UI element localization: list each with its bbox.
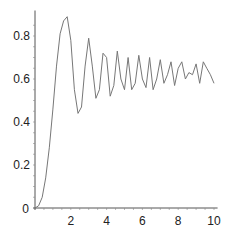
x-tick-label: 4 xyxy=(103,214,110,228)
x-tick-label: 6 xyxy=(139,214,146,228)
data-line xyxy=(35,17,214,208)
x-axis-labels: 246810 xyxy=(67,214,221,228)
x-tick-label: 2 xyxy=(67,214,74,228)
x-tick-label: 8 xyxy=(175,214,182,228)
y-tick-label: 0.4 xyxy=(13,115,30,129)
x-tick-label: 10 xyxy=(207,214,221,228)
y-tick-label: 0.2 xyxy=(13,158,30,172)
origin-label: 0 xyxy=(22,202,29,216)
line-chart: 0.20.40.60.8 246810 0 xyxy=(0,0,229,228)
y-tick-label: 0.6 xyxy=(13,72,30,86)
plot-area: 0.20.40.60.8 246810 0 xyxy=(0,0,229,228)
y-tick-label: 0.8 xyxy=(13,29,30,43)
y-axis-labels: 0.20.40.60.8 xyxy=(13,29,30,172)
